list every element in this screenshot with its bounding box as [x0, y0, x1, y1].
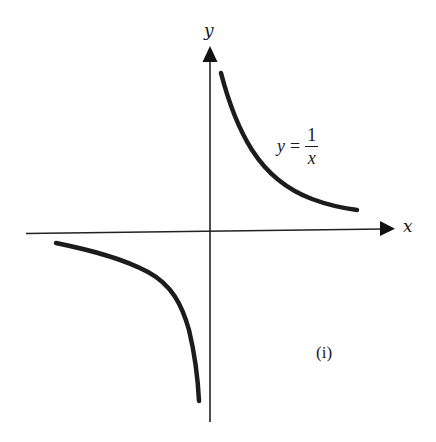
reciprocal-function-graph [0, 0, 436, 442]
curve-branch-negative [56, 243, 199, 401]
x-axis-arrow-icon [380, 221, 395, 236]
figure-tag: (i) [316, 344, 332, 361]
y-axis-arrow-icon [203, 46, 218, 62]
curve-equation-label: y = 1 x [277, 126, 318, 167]
equation-equals: = [290, 136, 300, 157]
equation-lhs: y [277, 136, 285, 157]
x-axis-label: x [403, 218, 413, 235]
x-axis [26, 229, 384, 234]
fraction-numerator: 1 [305, 126, 318, 147]
equation-fraction: 1 x [305, 126, 318, 167]
fraction-denominator: x [308, 147, 316, 167]
y-axis-label: y [204, 22, 214, 39]
